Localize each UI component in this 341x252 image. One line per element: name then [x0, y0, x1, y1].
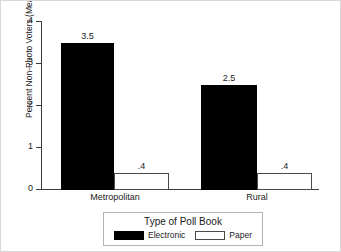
category-label-metropolitan: Metropolitan [90, 192, 140, 203]
bar-value-metropolitan-paper: .4 [138, 161, 146, 172]
legend-entries: Electronic Paper [104, 230, 262, 240]
y-axis-title: Percent Non-Photo Voters (Mean) [24, 0, 34, 134]
bar-value-metropolitan-electronic: 3.5 [81, 31, 94, 42]
plot-area: 3.5 .4 2.5 .4 [41, 19, 319, 190]
bar-value-rural-paper: .4 [281, 161, 289, 172]
legend-title: Type of Poll Book [104, 215, 262, 228]
legend-label-electronic: Electronic [148, 230, 185, 240]
filled-black-swatch-icon [114, 231, 144, 240]
bar-rural-electronic[interactable]: 2.5 [201, 85, 257, 190]
y-tick-label-1: 1 [28, 141, 33, 152]
bar-chart-figure: 4 3 2 1 0 Percent Non-Photo Voters (Mean… [0, 0, 341, 252]
legend-entry-paper[interactable]: Paper [195, 230, 252, 240]
outlined-white-swatch-icon [195, 231, 225, 240]
bar-value-rural-electronic: 2.5 [223, 73, 236, 84]
category-label-rural: Rural [246, 192, 268, 203]
bar-metropolitan-electronic[interactable]: 3.5 [61, 43, 114, 190]
legend-entry-electronic[interactable]: Electronic [114, 230, 185, 240]
bar-metropolitan-paper[interactable]: .4 [114, 173, 169, 190]
y-tick-label-0: 0 [28, 183, 33, 194]
bar-rural-paper[interactable]: .4 [257, 173, 312, 190]
legend-box: Type of Poll Book Electronic Paper [103, 212, 263, 246]
legend-label-paper: Paper [229, 230, 252, 240]
